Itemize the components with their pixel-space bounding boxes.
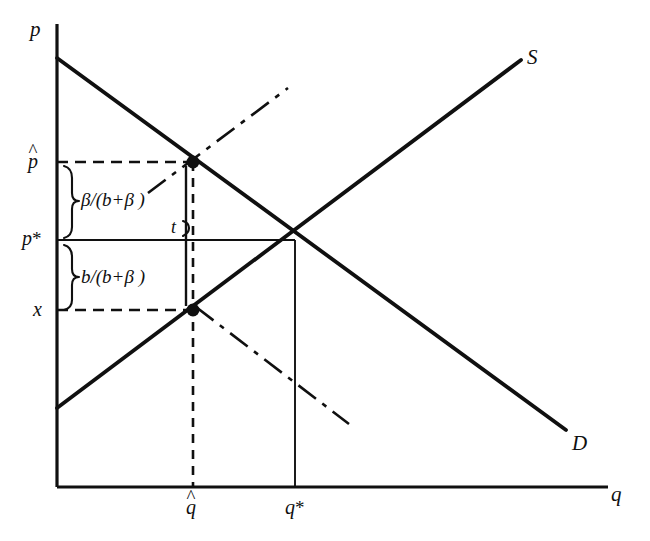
shifted-demand-curve [196, 307, 349, 424]
demand-curve-label: D [572, 433, 587, 454]
y-axis-label: p [30, 19, 41, 40]
p-star-tick-label: p* [22, 228, 42, 248]
supply-curve-label: S [527, 47, 538, 68]
p-hat-tick-label: ^ p [28, 151, 38, 171]
axes-group [57, 24, 608, 487]
demand-curve [57, 58, 566, 430]
hat-accent-p: ^ [29, 141, 38, 160]
x-axis-label: q [611, 484, 622, 505]
supply-curve [57, 60, 521, 408]
star-accent-p: * [32, 228, 42, 249]
beta-share-brace [64, 166, 79, 238]
x-tick-label: x [33, 299, 42, 319]
supply-demand-tax-diagram: p q S D ^ p p* x ^ q q* β/(b+β ) b/(b+β … [0, 0, 650, 541]
hat-accent-q: ^ [187, 487, 196, 506]
tax-label: t [171, 218, 176, 236]
q-star-tick-label: q* [285, 497, 305, 517]
star-accent-q: * [295, 497, 305, 518]
b-share-label: b/(b+β ) [81, 267, 145, 286]
p-star-base: p [22, 227, 32, 249]
beta-share-label: β/(b+β ) [81, 190, 145, 209]
b-share-brace [64, 245, 79, 310]
consumer-price-point [187, 156, 200, 169]
braces-group [64, 166, 189, 310]
q-hat-tick-label: ^ q [186, 497, 196, 517]
reference-lines-group [57, 162, 295, 487]
q-star-base: q [285, 496, 295, 518]
producer-price-point [187, 304, 200, 317]
